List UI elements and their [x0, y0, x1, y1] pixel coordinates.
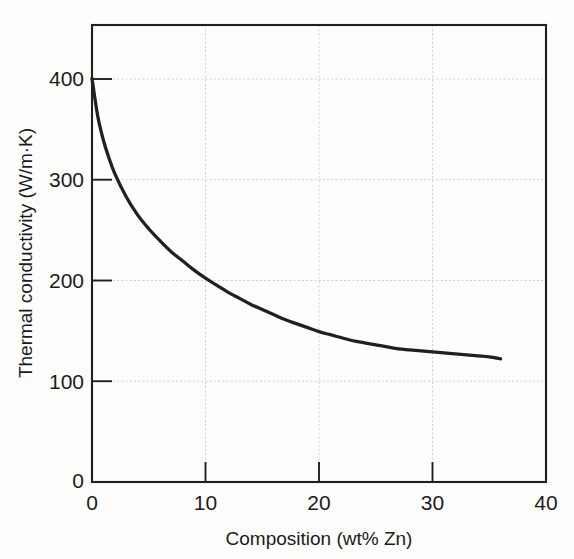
y-tick-label-300: 300: [49, 168, 84, 191]
x-tick-label-40: 40: [534, 491, 557, 514]
x-tick-label-20: 20: [307, 491, 330, 514]
x-tick-label-0: 0: [86, 491, 98, 514]
y-tick-label-100: 100: [49, 370, 84, 393]
y-tick-label-200: 200: [49, 269, 84, 292]
y-axis-title: Thermal conductivity (W/m·K): [15, 128, 36, 378]
chart-canvas: 100 200 300 400 0 0 10 20 30 40 Composit…: [0, 0, 574, 559]
y-tick-labels: 100 200 300 400 0: [49, 67, 84, 492]
y-tick-label-0: 0: [72, 469, 84, 492]
x-axis-title: Composition (wt% Zn): [226, 528, 413, 549]
x-tick-label-10: 10: [194, 491, 217, 514]
chart-figure: 100 200 300 400 0 0 10 20 30 40 Composit…: [0, 0, 574, 559]
x-tick-labels: 0 10 20 30 40: [86, 491, 558, 514]
y-tick-label-400: 400: [49, 67, 84, 90]
x-tick-label-30: 30: [421, 491, 444, 514]
